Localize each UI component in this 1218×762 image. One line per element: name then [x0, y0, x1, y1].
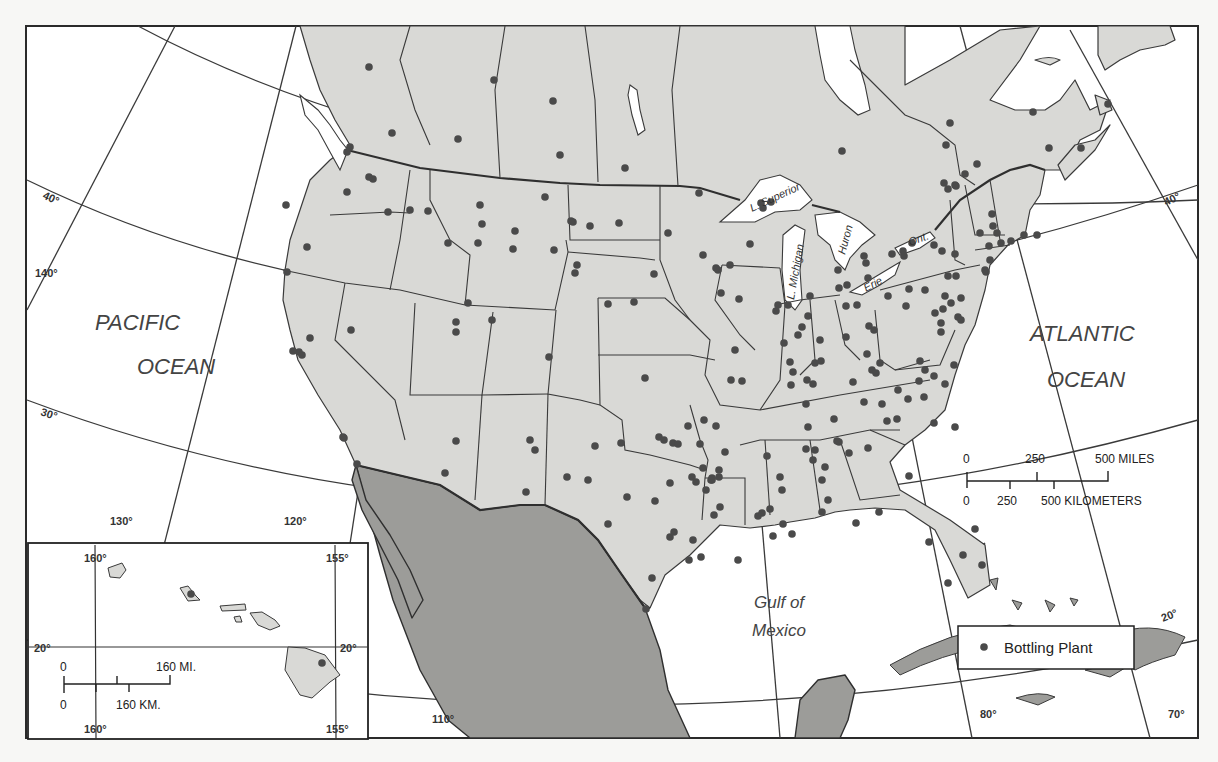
bottling-plant-dot	[930, 241, 938, 249]
lon-140-label: 140°	[35, 267, 58, 279]
bottling-plant-dot	[441, 469, 449, 477]
bottling-plant-dot	[573, 261, 581, 269]
scale-km-0: 0	[963, 494, 970, 508]
bottling-plant-dot	[738, 377, 746, 385]
bottling-plant-dot	[946, 119, 954, 127]
bottling-plant-dot	[306, 334, 314, 342]
bottling-plant-dot	[586, 222, 594, 230]
bottling-plant-dot	[878, 400, 886, 408]
bottling-plant-dot	[685, 556, 693, 564]
bottling-plant-dot	[915, 377, 923, 385]
bottling-plant-dot	[862, 259, 870, 267]
bottling-plant-dot	[716, 503, 724, 511]
bottling-plant-dot	[700, 416, 708, 424]
bottling-plant-dot	[571, 269, 579, 277]
lon-80-label: 80°	[980, 708, 997, 720]
bottling-plant-dot	[944, 272, 952, 280]
lon-70-label: 70°	[1168, 708, 1185, 720]
bottling-plant-dot	[952, 272, 960, 280]
bottling-plant-dot	[816, 336, 824, 344]
bottling-plant-dot	[870, 326, 878, 334]
bottling-plant-dot	[282, 201, 290, 209]
atlantic-ocean-label-2: OCEAN	[1047, 367, 1125, 392]
bottling-plant-dot	[788, 530, 796, 538]
bottling-plant-dot	[584, 476, 592, 484]
pacific-ocean-label-2: OCEAN	[137, 354, 215, 379]
bottling-plant-dot	[526, 436, 534, 444]
bottling-plant-dot	[802, 400, 810, 408]
bottling-plant-dot	[842, 302, 850, 310]
bottling-plant-dot	[452, 328, 460, 336]
bottling-plant-dot	[981, 266, 989, 274]
bottling-plant-dot	[942, 141, 950, 149]
bottling-plant-dot	[298, 351, 306, 359]
bottling-plant-dot	[567, 217, 575, 225]
bottling-plant-dot	[684, 422, 692, 430]
bottling-plant-dot	[978, 561, 986, 569]
bottling-plant-dot	[951, 423, 959, 431]
bottling-plant-dot	[488, 316, 496, 324]
bottling-plant-dot	[778, 486, 786, 494]
inset-scale-mi-0: 0	[60, 660, 67, 674]
scale-km-250: 250	[997, 494, 1017, 508]
bottling-plant-dot	[944, 185, 952, 193]
bottling-plant-dot	[884, 292, 892, 300]
bottling-plant-dot	[872, 369, 880, 377]
bottling-plant-dot	[937, 328, 945, 336]
bottling-plant-dot	[623, 493, 631, 501]
hawaii-inset-frame	[28, 543, 368, 739]
bottling-plant-dot	[650, 270, 658, 278]
legend-label: Bottling Plant	[1004, 639, 1093, 656]
bottling-plant-dot	[347, 326, 355, 334]
gulf-of-mexico-label: Gulf of	[754, 593, 806, 612]
bottling-plant-dot	[642, 605, 650, 613]
bottling-plant-dot	[692, 478, 700, 486]
bottling-plant-dot	[863, 350, 871, 358]
bottling-plant-dot	[549, 97, 557, 105]
bottling-plant-dot	[971, 525, 979, 533]
bottling-plant-dot	[824, 496, 832, 504]
bottling-plant-dot	[641, 374, 649, 382]
bottling-plant-dot	[630, 298, 638, 306]
bottling-plant-dot	[318, 659, 326, 667]
bottling-plant-dot	[921, 366, 929, 374]
bottling-plant-dot	[921, 286, 929, 294]
bottling-plant-dot	[664, 229, 672, 237]
bottling-plant-dot	[388, 129, 396, 137]
bottling-plant-dot	[916, 357, 924, 365]
inset-lon-155-bottom: 155°	[326, 723, 349, 735]
bottling-plant-dot	[833, 437, 841, 445]
bottling-plant-dot	[660, 436, 668, 444]
bottling-plant-dot	[961, 170, 969, 178]
atlantic-ocean-label: ATLANTIC	[1028, 321, 1135, 346]
bottling-plant-dot	[900, 252, 908, 260]
bottling-plant-dot	[894, 386, 902, 394]
bottling-plant-dot	[1077, 144, 1085, 152]
bottling-plant-dot	[794, 331, 802, 339]
bottling-plant-dot	[710, 511, 718, 519]
bottling-plant-dot	[1045, 144, 1053, 152]
bottling-plant-dot	[339, 433, 347, 441]
bottling-plant-dot	[726, 261, 734, 269]
bottling-plant-dot	[818, 476, 826, 484]
bottling-plant-dot	[712, 422, 720, 430]
bottling-plant-dot	[811, 359, 819, 367]
lon-130-label: 130°	[110, 515, 133, 527]
bottling-plant-dot	[651, 497, 659, 505]
bottling-plant-dot	[941, 292, 949, 300]
bottling-plant-dot	[699, 464, 707, 472]
inset-lat-20-right: 20°	[340, 642, 357, 654]
bottling-plant-dot	[809, 456, 817, 464]
bottling-plant-dot	[766, 505, 774, 513]
bottling-plant-dot	[985, 242, 993, 250]
bottling-plant-dot	[695, 189, 703, 197]
bottling-plant-dot	[876, 359, 884, 367]
bottling-plant-dot	[951, 250, 959, 258]
inset-lon-155-top: 155°	[326, 552, 349, 564]
bottling-plant-dot	[615, 219, 623, 227]
inset-scale-mi-160: 160 MI.	[156, 660, 196, 674]
bottling-plant-dot	[464, 299, 472, 307]
bottling-plant-dot	[786, 358, 794, 366]
bottling-plant-dot	[986, 256, 994, 264]
bottling-plant-dot	[731, 346, 739, 354]
